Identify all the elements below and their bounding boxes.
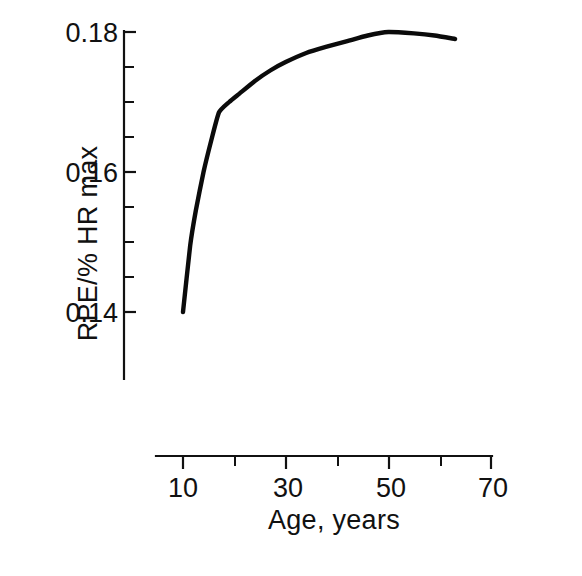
data-series-line: [183, 32, 455, 312]
x-tick-label-70: 70: [478, 473, 508, 503]
y-axis-title: RPE/% HR max: [73, 94, 104, 394]
chart-figure: 0.18 0.16 0.14 10 30 50 70 RPE/% HR max …: [0, 0, 582, 576]
x-axis: 10 30 50 70: [156, 456, 508, 503]
y-tick-label-0.18: 0.18: [65, 18, 118, 48]
x-tick-label-10: 10: [168, 473, 198, 503]
x-axis-title: Age, years: [0, 505, 582, 536]
x-tick-label-30: 30: [273, 473, 303, 503]
y-axis-title-text: RPE/% HR max: [73, 146, 103, 342]
x-axis-title-text: Age, years: [182, 505, 400, 535]
x-tick-label-50: 50: [376, 473, 406, 503]
